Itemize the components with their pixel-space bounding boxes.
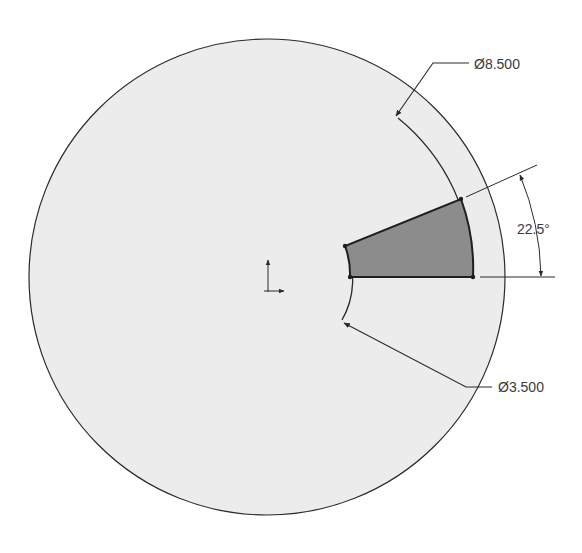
inner-diameter-label[interactable]: Ø3.500 xyxy=(498,379,544,395)
sketch-point[interactable] xyxy=(471,275,475,279)
angle-dimension-label[interactable]: 22.5° xyxy=(517,221,550,237)
sketch-point[interactable] xyxy=(343,244,347,248)
outer-diameter-label[interactable]: Ø8.500 xyxy=(474,56,520,72)
sketch-point[interactable] xyxy=(459,197,463,201)
sketch-point[interactable] xyxy=(348,275,352,279)
sketch-canvas: 22.5° Ø8.500 Ø3.500 xyxy=(0,0,582,553)
